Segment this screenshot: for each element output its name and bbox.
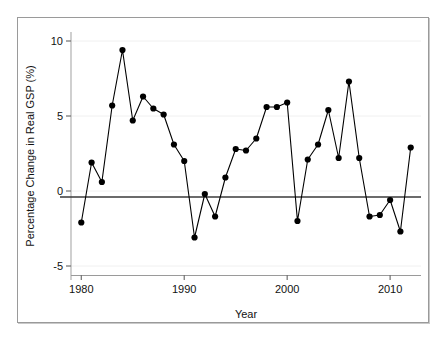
data-point xyxy=(315,141,321,147)
data-point xyxy=(202,191,208,197)
data-point xyxy=(346,78,352,84)
data-point xyxy=(119,47,125,53)
data-point xyxy=(336,155,342,161)
data-point xyxy=(274,104,280,110)
y-tick-label: 10 xyxy=(51,35,63,47)
x-tick-label: 1990 xyxy=(172,283,196,295)
x-tick-label: 2000 xyxy=(275,283,299,295)
data-point xyxy=(325,107,331,113)
data-point xyxy=(387,197,393,203)
data-point xyxy=(140,93,146,99)
data-point xyxy=(150,105,156,111)
data-point xyxy=(253,135,259,141)
x-axis-title: Year xyxy=(235,308,258,320)
y-tick-label: 0 xyxy=(57,185,63,197)
data-point xyxy=(305,156,311,162)
data-point xyxy=(171,141,177,147)
x-tick-label: 2010 xyxy=(378,283,402,295)
data-point xyxy=(243,147,249,153)
data-point xyxy=(408,144,414,150)
line-chart-plot: -50510 1980199020002010 Year Percentage … xyxy=(0,0,447,345)
data-point xyxy=(377,212,383,218)
data-point xyxy=(78,219,84,225)
data-point xyxy=(130,117,136,123)
data-point xyxy=(191,234,197,240)
data-point xyxy=(212,213,218,219)
data-point xyxy=(397,228,403,234)
data-point xyxy=(99,179,105,185)
data-point xyxy=(233,146,239,152)
data-series-line xyxy=(81,50,410,238)
x-axis-ticks: 1980199020002010 xyxy=(69,275,402,295)
y-tick-label: 5 xyxy=(57,110,63,122)
data-point xyxy=(181,158,187,164)
data-point xyxy=(222,174,228,180)
data-point xyxy=(284,99,290,105)
data-point xyxy=(356,155,362,161)
chart-figure: -50510 1980199020002010 Year Percentage … xyxy=(0,0,447,345)
data-point-markers xyxy=(78,47,414,241)
data-point xyxy=(109,102,115,108)
y-axis-title: Percentage Change in Real GSP (%) xyxy=(24,65,36,246)
data-point xyxy=(161,111,167,117)
y-tick-label: -5 xyxy=(53,260,63,272)
x-tick-label: 1980 xyxy=(69,283,93,295)
data-point xyxy=(294,218,300,224)
data-point xyxy=(263,104,269,110)
data-point xyxy=(88,159,94,165)
y-axis-ticks: -50510 xyxy=(51,35,71,272)
data-point xyxy=(366,213,372,219)
